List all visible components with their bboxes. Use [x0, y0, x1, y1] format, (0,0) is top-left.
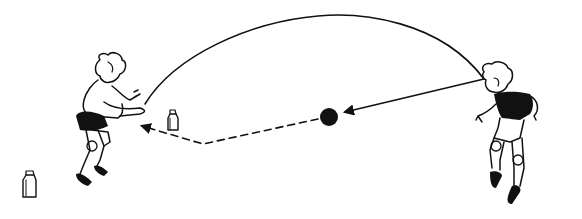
left-child-figure	[76, 53, 145, 186]
throw-arrow	[345, 79, 484, 112]
ball	[320, 108, 338, 126]
milk-carton-near-icon	[168, 110, 178, 130]
milk-carton-far-icon	[23, 171, 36, 197]
illustration	[0, 0, 582, 219]
right-child-figure	[476, 62, 537, 204]
